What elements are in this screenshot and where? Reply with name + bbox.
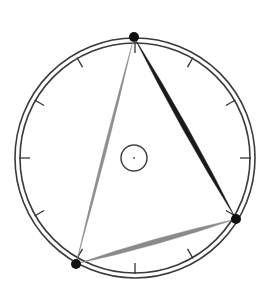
connection-top-to-bottom-left — [76, 37, 134, 264]
tick-mark — [188, 249, 194, 259]
tick-mark — [77, 58, 83, 68]
connection-right-to-bottom-left — [76, 219, 236, 264]
center-dot — [133, 157, 135, 159]
connection-lines — [76, 37, 236, 264]
point-bottom-left — [71, 259, 81, 269]
tick-mark — [226, 100, 236, 106]
tick-mark — [35, 211, 45, 217]
connection-top-to-right — [134, 37, 236, 219]
point-top — [129, 32, 139, 42]
circular-graph-diagram — [0, 0, 274, 302]
diagram-canvas — [0, 0, 274, 302]
center-marker — [121, 145, 147, 171]
tick-mark — [188, 58, 194, 68]
point-right — [231, 214, 241, 224]
tick-mark — [35, 100, 45, 106]
circumference-points — [71, 32, 241, 269]
